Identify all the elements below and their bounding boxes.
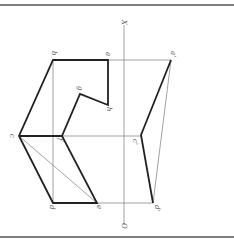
label-a-prime: a' — [169, 51, 177, 57]
projection-diagram: X O b a h g c f d e a' c' d' — [0, 0, 234, 249]
label-e: e — [95, 205, 103, 209]
label-d-prime: d' — [153, 205, 161, 211]
label-d: d — [48, 205, 56, 210]
front-view-outline — [19, 60, 108, 203]
label-f: f — [56, 137, 64, 142]
label-h: h — [105, 107, 113, 112]
label-c-prime: c' — [131, 139, 139, 145]
label-c: c — [8, 134, 16, 138]
label-x: X — [120, 19, 128, 26]
diagonal-c-e — [19, 136, 97, 203]
label-b: b — [50, 51, 58, 56]
label-a: a — [104, 52, 112, 56]
label-o: O — [120, 223, 128, 229]
label-g: g — [76, 86, 84, 91]
